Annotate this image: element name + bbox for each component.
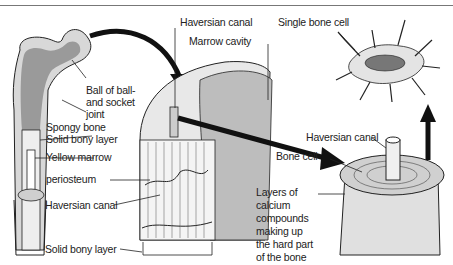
label-periosteum: periosteum — [46, 173, 96, 185]
label-haversian-canal-right: Haversian canal — [306, 131, 378, 143]
label-line: of the bone — [256, 251, 313, 264]
label-haversian-canal-left: Haversian canal — [45, 199, 117, 211]
label-single-bone-cell: Single bone cell — [278, 16, 349, 28]
label-line: Ball of ball- — [86, 84, 135, 96]
label-haversian-canal-top: Haversian canal — [180, 16, 252, 28]
label-line: the hard part — [256, 238, 313, 251]
label-bone-cell: Bone cell — [276, 150, 317, 162]
label-yellow-marrow: Yellow marrow — [46, 151, 111, 163]
label-line: joint — [86, 108, 135, 120]
label-line: compounds — [256, 212, 313, 225]
label-calcium-layers: Layers of calcium compounds making up th… — [256, 186, 313, 264]
label-solid-bony-layer-bottom: Solid bony layer — [45, 243, 117, 255]
label-line: and socket — [86, 96, 135, 108]
label-line: Layers of — [256, 186, 313, 199]
label-solid-bony-layer-top: Solid bony layer — [46, 133, 118, 145]
label-spongy-bone: Spongy bone — [46, 121, 106, 133]
single-bone-cell-illustration — [336, 20, 440, 102]
label-ball-joint: Ball of ball- and socket joint — [86, 84, 135, 120]
label-marrow-cavity: Marrow cavity — [189, 35, 251, 47]
label-line: making up — [256, 225, 313, 238]
label-line: calcium — [256, 199, 313, 212]
bone-section-illustration — [140, 62, 272, 255]
